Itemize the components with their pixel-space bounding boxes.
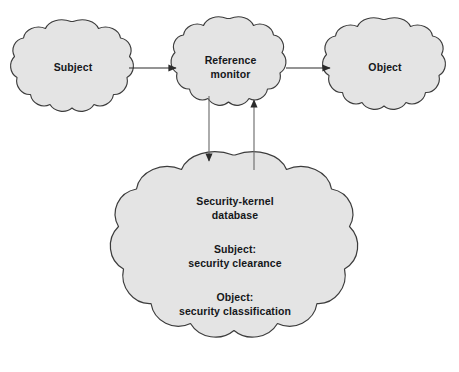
node-label-subject-line1: Subject [18,61,128,74]
node-label-database-subject: Subject: security clearance [145,243,325,270]
node-label-database-subject-line1: Subject: [145,243,325,257]
node-label-database-subject-line2: security clearance [145,257,325,271]
node-label-reference-monitor: Reference monitor [178,54,283,81]
node-label-reference-monitor-line2: monitor [178,68,283,82]
node-label-reference-monitor-line1: Reference [178,54,283,68]
node-label-database-title: Security-kernel database [150,195,320,222]
node-label-object-line1: Object [330,61,440,74]
node-label-object: Object [330,61,440,74]
node-label-database-title-line1: Security-kernel [150,195,320,209]
node-label-database-object: Object: security classification [140,291,330,318]
node-label-subject: Subject [18,61,128,74]
diagram-canvas: Subject Reference monitor Object Securit… [0,0,459,372]
node-label-database-object-line2: security classification [140,305,330,319]
node-label-database-title-line2: database [150,209,320,223]
node-label-database-object-line1: Object: [140,291,330,305]
